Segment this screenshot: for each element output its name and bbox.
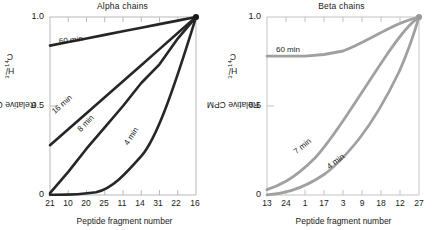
curve-beta-7min: [267, 17, 419, 190]
x-axis-title-beta: Peptide fragment number: [223, 216, 446, 226]
curve-label-beta-60min: 60 min: [276, 45, 300, 54]
figure-container: Alpha chains Relative CPM 3H/14C 1.0 0.5…: [0, 0, 446, 230]
tick-group-top-beta: [286, 17, 400, 22]
tick-group-top-alpha: [68, 17, 178, 22]
panel-beta-chains: Beta chains Relative CPM 3H/14C 1.0 0.5 …: [223, 0, 446, 230]
x-axis-title-alpha: Peptide fragment number: [0, 216, 223, 226]
plot-area-beta: [223, 0, 446, 230]
endpoint-marker-beta: [416, 14, 422, 20]
plot-area-alpha: [0, 0, 223, 230]
endpoint-marker-alpha: [193, 14, 199, 20]
panel-alpha-chains: Alpha chains Relative CPM 3H/14C 1.0 0.5…: [0, 0, 223, 230]
tick-group-bottom-beta: [286, 190, 400, 195]
